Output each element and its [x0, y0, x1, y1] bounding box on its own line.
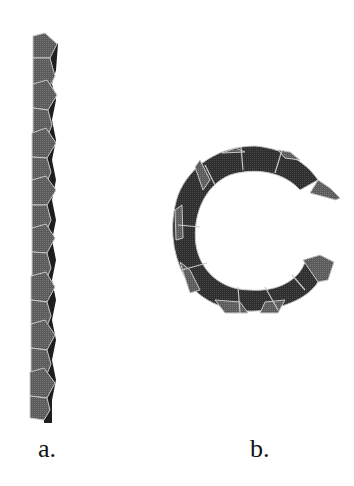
panel-b-label: b. — [250, 436, 270, 462]
panel-a-straight-column — [30, 33, 58, 423]
figure: a. b. — [0, 0, 354, 486]
pentagon-chain-illustration — [0, 0, 354, 486]
panel-b-c-shaped-arc — [173, 146, 340, 313]
panel-a-label: a. — [38, 436, 56, 462]
